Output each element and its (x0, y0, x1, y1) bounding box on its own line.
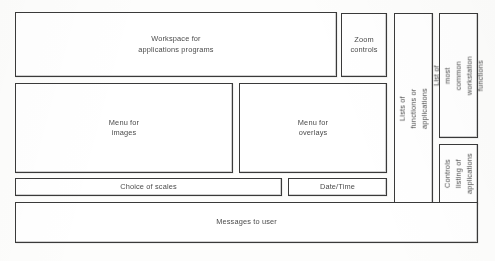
region-messages-to-user[interactable]: Messages to user (15, 202, 478, 243)
region-list-of-most-common-workstation-functions-label: List of most common workstation function… (431, 56, 487, 95)
region-menu-for-images[interactable]: Menu for images (15, 83, 233, 173)
region-lists-of-functions-or-applications-label: Lists of functions or applications (397, 88, 430, 129)
region-menu-for-overlays[interactable]: Menu for overlays (239, 83, 387, 173)
region-workspace-label: Workspace for applications programs (138, 34, 213, 54)
workstation-layout-diagram: Workspace for applications programs Zoom… (0, 0, 495, 261)
region-workspace[interactable]: Workspace for applications programs (15, 12, 337, 77)
region-zoom-controls[interactable]: Zoom controls (341, 13, 387, 77)
region-messages-to-user-label: Messages to user (216, 217, 277, 227)
region-choice-of-scales-label: Choice of scales (120, 182, 177, 192)
region-menu-for-images-label: Menu for images (109, 118, 139, 138)
region-zoom-controls-label: Zoom controls (350, 35, 377, 55)
region-controls-listing-of-applications-label: Controls listing of applications (442, 154, 475, 195)
region-date-time[interactable]: Date/Time (288, 178, 387, 196)
region-lists-of-functions-or-applications[interactable]: Lists of functions or applications (394, 13, 433, 204)
region-list-of-most-common-workstation-functions[interactable]: List of most common workstation function… (439, 13, 478, 138)
region-controls-listing-of-applications[interactable]: Controls listing of applications (439, 144, 478, 204)
region-date-time-label: Date/Time (320, 182, 355, 192)
region-menu-for-overlays-label: Menu for overlays (298, 118, 328, 138)
region-choice-of-scales[interactable]: Choice of scales (15, 178, 282, 196)
